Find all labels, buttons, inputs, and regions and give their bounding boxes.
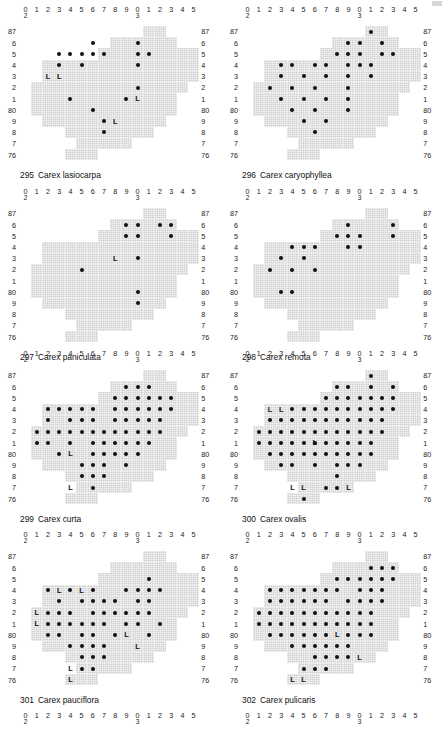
map-cell xyxy=(87,82,98,93)
row-label-right: 5 xyxy=(201,51,217,58)
map-cell xyxy=(42,242,53,253)
map-cell xyxy=(154,629,165,640)
column-label: 5 xyxy=(410,712,422,719)
row-label-right: 5 xyxy=(423,233,439,240)
map-cell xyxy=(276,641,287,652)
map-cell xyxy=(132,264,143,275)
map-cell xyxy=(154,448,165,459)
row-label-right: 87 xyxy=(423,28,439,35)
record-dot xyxy=(358,245,362,249)
map-cell xyxy=(31,93,42,104)
map-cell xyxy=(98,60,109,71)
map-cell xyxy=(298,286,309,297)
map-cell xyxy=(121,562,132,573)
map-panel-297: 0212345678903123458787665544332211808099… xyxy=(0,188,221,368)
distribution-map: LLLL xyxy=(20,26,199,160)
map-cell xyxy=(143,652,154,663)
map-cell xyxy=(287,253,298,264)
record-dot xyxy=(358,463,362,467)
map-cell xyxy=(354,82,365,93)
map-cell xyxy=(143,26,154,37)
record-dot xyxy=(302,667,306,671)
row-label-left: 3 xyxy=(0,417,16,424)
map-cell xyxy=(143,298,154,309)
column-label: 8 xyxy=(331,350,343,357)
map-cell xyxy=(98,230,109,241)
record-dot xyxy=(358,577,362,581)
map-cell xyxy=(264,641,275,652)
map-cell xyxy=(143,618,154,629)
row-label-right: 3 xyxy=(423,417,439,424)
row-label-left: 7 xyxy=(222,140,238,147)
row-label-left: 76 xyxy=(222,334,238,341)
map-cell xyxy=(376,275,387,286)
map-cell xyxy=(132,71,143,82)
column-label: 2 xyxy=(154,188,166,195)
map-cell xyxy=(87,674,98,685)
row-label-right: 1 xyxy=(423,278,439,285)
column-label: 2 xyxy=(42,188,54,195)
map-cell xyxy=(121,264,132,275)
row-label-left: 5 xyxy=(222,233,238,240)
record-dot xyxy=(268,268,272,272)
map-cell xyxy=(388,71,399,82)
map-cell xyxy=(154,264,165,275)
record-dot xyxy=(91,108,95,112)
map-cell xyxy=(309,286,320,297)
row-label-left: 76 xyxy=(222,496,238,503)
column-label: 9 xyxy=(342,712,354,719)
map-caption-300: 300Carex ovalis xyxy=(242,515,306,524)
row-label-left: 9 xyxy=(222,118,238,125)
map-cell xyxy=(132,652,143,663)
record-dot xyxy=(80,644,84,648)
map-cell xyxy=(399,253,410,264)
map-cell xyxy=(410,230,421,241)
column-label: 4 xyxy=(398,188,410,195)
map-cell xyxy=(332,275,343,286)
column-label: 9 xyxy=(120,6,132,13)
map-cell xyxy=(376,60,387,71)
map-panel-301: 0212345678903123458787665544332211808099… xyxy=(0,531,221,711)
map-cell xyxy=(143,82,154,93)
column-label: 4 xyxy=(64,712,76,719)
map-cell xyxy=(154,48,165,59)
column-label: 1 xyxy=(365,350,377,357)
record-dot xyxy=(136,86,140,90)
map-cell xyxy=(76,116,87,127)
column-label: 3 xyxy=(387,188,399,195)
row-label-left: 6 xyxy=(222,565,238,572)
record-dot xyxy=(136,63,140,67)
column-label: 8 xyxy=(109,6,121,13)
map-cell xyxy=(42,93,53,104)
column-label-hundreds: 3 xyxy=(132,357,144,364)
record-dot xyxy=(268,430,272,434)
map-cell xyxy=(65,286,76,297)
map-cell xyxy=(166,275,177,286)
map-cell xyxy=(298,104,309,115)
map-cell xyxy=(298,320,309,331)
map-cell xyxy=(110,82,121,93)
row-label-right: 5 xyxy=(201,395,217,402)
column-label: 4 xyxy=(286,712,298,719)
record-dot xyxy=(147,577,151,581)
map-number: 301 xyxy=(20,695,34,705)
column-label: 7 xyxy=(320,350,332,357)
map-cell xyxy=(343,309,354,320)
row-label-right: 7 xyxy=(423,484,439,491)
map-cell xyxy=(98,264,109,275)
column-label: 3 xyxy=(165,188,177,195)
map-cell xyxy=(354,471,365,482)
column-label: 2 xyxy=(264,712,276,719)
map-cell xyxy=(332,596,343,607)
record-dot xyxy=(91,622,95,626)
record-dot xyxy=(68,52,72,56)
map-cell xyxy=(166,596,177,607)
record-dot xyxy=(113,611,117,615)
record-letter-marker: L xyxy=(298,676,309,683)
map-cell xyxy=(76,286,87,297)
column-label: 1 xyxy=(253,6,265,13)
map-cell xyxy=(177,392,188,403)
column-label: 7 xyxy=(320,712,332,719)
map-cell xyxy=(76,71,87,82)
column-label: 4 xyxy=(64,531,76,538)
